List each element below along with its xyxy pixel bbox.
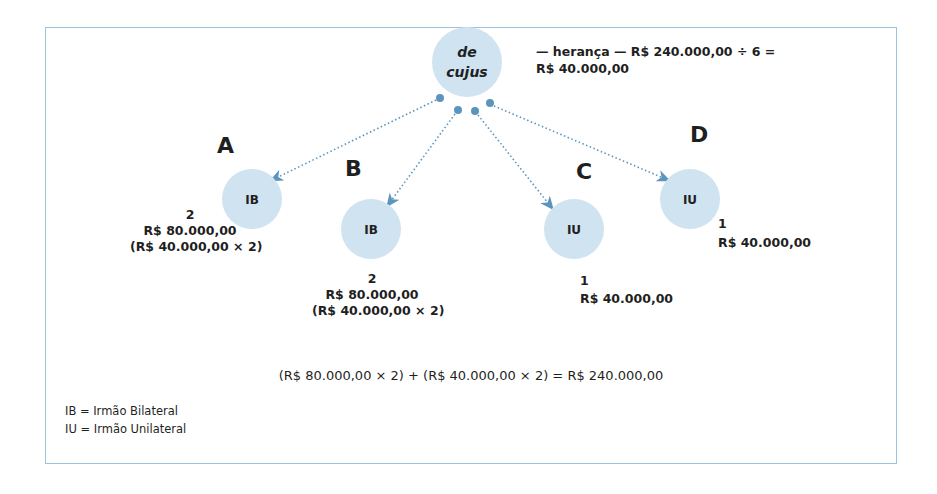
heir-b-type: IB: [364, 223, 378, 237]
inheritance-note-line1: — herança — R$ 240.000,00 ÷ 6 =: [536, 44, 775, 59]
connector-dot-d: [486, 99, 494, 107]
heir-b-amount: R$ 80.000,00: [312, 287, 432, 302]
heir-d-shares: 1: [718, 216, 727, 231]
heir-b-calc: (R$ 40.000,00 × 2): [312, 303, 432, 318]
heir-c-type: IU: [567, 223, 581, 237]
arrow-to-b: [388, 114, 455, 205]
heir-d-amount: R$ 40.000,00: [718, 235, 811, 250]
arrow-to-c: [478, 115, 552, 208]
root-label-line1: de: [457, 44, 477, 60]
heir-b-shares: 2: [312, 271, 432, 286]
heir-c-amount: R$ 40.000,00: [580, 291, 673, 306]
heir-a-amount: R$ 80.000,00: [130, 223, 250, 238]
heir-node-b: IB: [341, 199, 401, 259]
connector-dot-c: [471, 107, 479, 115]
heir-c-letter: C: [576, 159, 592, 184]
heir-a-letter: A: [217, 133, 234, 158]
root-label-line2: cujus: [446, 64, 487, 80]
heir-node-d: IU: [660, 169, 720, 229]
heir-b-letter: B: [345, 156, 362, 181]
inheritance-note-line2: R$ 40.000,00: [536, 61, 629, 76]
total-equation: (R$ 80.000,00 × 2) + (R$ 40.000,00 × 2) …: [45, 368, 897, 383]
heir-c-shares: 1: [580, 273, 589, 288]
heir-a-shares: 2: [130, 207, 250, 222]
heir-node-c: IU: [544, 199, 604, 259]
legend-ib: IB = Irmão Bilateral: [65, 404, 178, 418]
connector-dot-a: [436, 94, 444, 102]
heir-d-letter: D: [690, 122, 708, 147]
root-node-de-cujus: de cujus: [432, 27, 502, 115]
heir-a-type: IB: [245, 193, 259, 207]
legend-iu: IU = Irmão Unilateral: [65, 422, 186, 436]
heir-a-calc: (R$ 40.000,00 × 2): [130, 239, 250, 254]
heir-d-type: IU: [683, 193, 697, 207]
connector-dot-b: [454, 106, 462, 114]
